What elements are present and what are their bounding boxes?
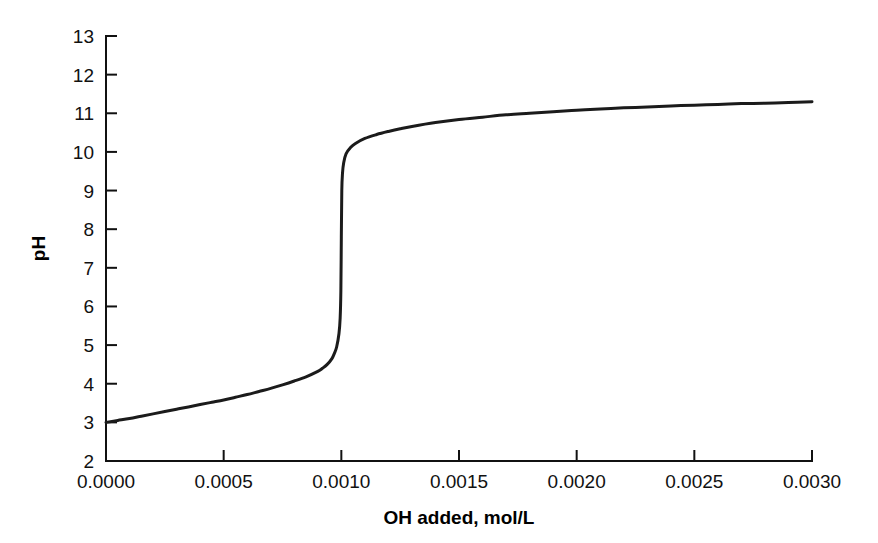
y-tick-label: 10 (73, 142, 94, 163)
x-tick-label: 0.0005 (195, 471, 253, 492)
x-tick-label: 0.0000 (77, 471, 135, 492)
x-tick-label: 0.0015 (430, 471, 488, 492)
y-tick-label: 8 (83, 219, 94, 240)
x-tick-label: 0.0010 (312, 471, 370, 492)
y-tick-label: 2 (83, 451, 94, 472)
y-tick-label: 3 (83, 412, 94, 433)
y-axis-title: pH (28, 236, 49, 261)
y-tick-label: 5 (83, 335, 94, 356)
y-tick-label: 13 (73, 26, 94, 47)
x-tick-label: 0.0020 (548, 471, 606, 492)
x-tick-label: 0.0030 (783, 471, 841, 492)
y-tick-label: 9 (83, 181, 94, 202)
y-tick-label: 11 (74, 103, 94, 124)
y-tick-label: 6 (83, 296, 94, 317)
y-tick-label: 7 (83, 258, 94, 279)
x-axis-title: OH added, mol/L (384, 507, 535, 528)
titration-chart: 2345678910111213 0.00000.00050.00100.001… (0, 0, 878, 543)
chart-plot-area: 2345678910111213 0.00000.00050.00100.001… (0, 0, 878, 543)
y-tick-label: 12 (73, 65, 94, 86)
x-tick-label: 0.0025 (665, 471, 723, 492)
y-tick-label: 4 (83, 374, 94, 395)
